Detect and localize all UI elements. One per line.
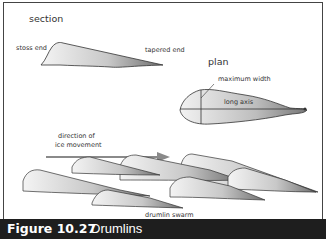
figure: section stoss end tapered end plan maxim… [0, 0, 326, 239]
section-heading: section [29, 13, 63, 24]
figure-caption: Figure 10.27 Drumlins [0, 219, 326, 239]
drumlin-swarm-label: drumlin swarm [145, 211, 194, 219]
figure-title: Drumlins [91, 221, 142, 236]
ice-movement-label-1: direction of [58, 132, 95, 140]
drumlin-illustration [0, 0, 326, 239]
maximum-width-label: maximum width [218, 75, 271, 83]
plan-drumlin [180, 89, 307, 124]
tapered-end-label: tapered end [145, 46, 185, 54]
ice-movement-label-2: ice movement [55, 141, 102, 149]
long-axis-label: long axis [224, 98, 253, 106]
figure-number: Figure 10.27 [7, 221, 96, 236]
plan-heading: plan [208, 56, 229, 67]
stoss-end-label: stoss end [16, 44, 47, 52]
